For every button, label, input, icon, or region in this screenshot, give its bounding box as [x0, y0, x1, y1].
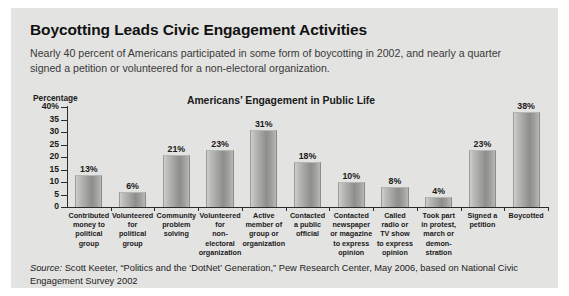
x-category-line: newspaper	[329, 220, 373, 229]
x-category-line: group or	[242, 229, 286, 238]
x-category-line: Signed a	[461, 211, 505, 220]
x-category-line: Called	[373, 211, 417, 220]
x-category-label: Contactednewspaperor magazineto expresso…	[329, 211, 373, 257]
x-category-line: to express	[373, 239, 417, 248]
x-category-line: TV show	[373, 229, 417, 238]
deck-paragraph: Nearly 40 percent of Americans participa…	[30, 46, 528, 76]
bar-value-label: 6%	[120, 181, 145, 191]
bar-value-label: 8%	[382, 176, 407, 186]
x-category-label: Volunteeredfornon-electoralorganization	[198, 211, 242, 257]
x-category-line: a public	[286, 220, 330, 229]
x-category-line: problem	[154, 220, 198, 229]
source-note: Source: Scott Keeter, “Politics and the …	[30, 262, 535, 288]
x-category-line: Contacted	[286, 211, 330, 220]
y-tick-mark	[61, 132, 67, 133]
x-category-line: for	[111, 220, 155, 229]
y-tick-mark	[61, 182, 67, 183]
x-category-line: Volunteered	[198, 211, 242, 220]
plot-area: 0510152025303540% 13%6%21%23%31%18%10%8%…	[67, 107, 548, 207]
x-category-line: Boycotted	[504, 211, 548, 220]
bar: 31%	[250, 130, 277, 208]
x-tick-mark	[548, 207, 549, 211]
y-tick-label: 15	[49, 164, 59, 174]
x-category-line: Contacted	[329, 211, 373, 220]
x-category-line: petition	[461, 220, 505, 229]
x-category-line: march or	[417, 229, 461, 238]
x-category-line: radio or	[373, 220, 417, 229]
y-tick-label: 40%	[42, 101, 59, 111]
y-tick-mark	[61, 207, 67, 208]
x-category-label: Volunteeredforpoliticalgroup	[111, 211, 155, 248]
y-tick-mark	[61, 145, 67, 146]
y-tick-mark	[61, 195, 67, 196]
bar-value-label: 31%	[251, 119, 276, 129]
x-category-line: Contributed	[67, 211, 111, 220]
y-tick-label: 20	[49, 151, 59, 161]
x-category-line: political	[67, 229, 111, 238]
bar: 38%	[513, 112, 540, 207]
x-category-line: demon-	[417, 239, 461, 248]
bar-value-label: 23%	[207, 139, 232, 149]
x-category-label: Signed apetition	[461, 211, 505, 229]
bar: 13%	[75, 175, 102, 208]
x-category-label: Took partin protest,march ordemon-strati…	[417, 211, 461, 257]
bar: 6%	[119, 192, 146, 207]
x-category-line: Active	[242, 211, 286, 220]
x-category-line: Community	[154, 211, 198, 220]
x-category-line: group	[67, 239, 111, 248]
x-category-line: solving	[154, 229, 198, 238]
y-tick-label: 35	[49, 114, 59, 124]
bar: 23%	[469, 150, 496, 208]
headline: Boycotting Leads Civic Engagement Activi…	[30, 21, 530, 38]
x-category-line: political	[111, 229, 155, 238]
x-category-line: to express	[329, 239, 373, 248]
bar-value-label: 18%	[295, 151, 320, 161]
bar: 23%	[206, 150, 233, 208]
y-tick-mark	[61, 170, 67, 171]
y-tick-label: 25	[49, 139, 59, 149]
bar-value-label: 13%	[76, 164, 101, 174]
x-category-line: opinion	[373, 248, 417, 257]
chart-title: Americans’ Engagement in Public Life	[71, 95, 491, 106]
y-tick-mark	[61, 120, 67, 121]
y-tick-mark	[61, 107, 67, 108]
x-axis-line	[67, 207, 549, 208]
y-tick-mark	[61, 157, 67, 158]
x-category-line: money to	[67, 220, 111, 229]
source-label: Source:	[30, 263, 62, 273]
bar-value-label: 38%	[514, 101, 539, 111]
bar-value-label: 23%	[470, 139, 495, 149]
y-tick-label: 0	[54, 201, 59, 211]
x-category-line: stration	[417, 248, 461, 257]
bar: 21%	[163, 155, 190, 208]
y-tick-label: 5	[54, 189, 59, 199]
x-category-line: organization	[242, 239, 286, 248]
x-category-line: organization	[198, 248, 242, 257]
bar-value-label: 10%	[339, 171, 364, 181]
bar: 8%	[381, 187, 408, 207]
x-category-label: Boycotted	[504, 211, 548, 220]
x-category-line: group	[111, 239, 155, 248]
x-category-line: or magazine	[329, 229, 373, 238]
x-category-line: Volunteered	[111, 211, 155, 220]
infographic-panel: Boycotting Leads Civic Engagement Activi…	[11, 8, 558, 288]
source-text: Scott Keeter, “Politics and the ‘DotNet’…	[30, 263, 518, 286]
x-category-line: in protest,	[417, 220, 461, 229]
x-category-label: Contacteda publicofficial	[286, 211, 330, 239]
x-category-label: Communityproblemsolving	[154, 211, 198, 239]
bar: 10%	[338, 182, 365, 207]
bar-value-label: 21%	[164, 144, 189, 154]
bar: 4%	[425, 197, 452, 207]
x-category-line: for	[198, 220, 242, 229]
y-tick-label: 10	[49, 176, 59, 186]
x-category-label: Activemember ofgroup ororganization	[242, 211, 286, 248]
bar-value-label: 4%	[426, 186, 451, 196]
x-category-line: opinion	[329, 248, 373, 257]
x-category-line: Took part	[417, 211, 461, 220]
y-tick-label: 30	[49, 126, 59, 136]
x-category-label: Contributedmoney topoliticalgroup	[67, 211, 111, 248]
x-category-line: member of	[242, 220, 286, 229]
x-category-label: Calledradio orTV showto expressopinion	[373, 211, 417, 257]
x-category-line: official	[286, 229, 330, 238]
x-category-line: non-electoral	[198, 229, 242, 247]
